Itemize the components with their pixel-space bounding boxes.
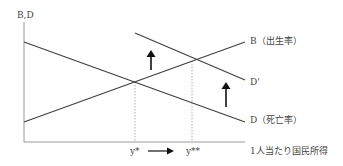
- x-axis-label: 1人当たり国民所得: [250, 146, 328, 156]
- tick-y-star-star: y**: [186, 146, 200, 156]
- right-arrow-icon: [148, 148, 174, 155]
- death-rate-label: D（死亡率）: [250, 115, 302, 125]
- birth-rate-label: B（出生率）: [250, 36, 302, 46]
- shifted-death-rate-label: D': [250, 77, 260, 87]
- diagram-canvas: [0, 0, 343, 166]
- tick-y-star: y*: [130, 146, 140, 156]
- up-arrow-icon: [147, 50, 156, 70]
- up-arrow-icon: [222, 82, 231, 107]
- y-axis-label: B,D: [17, 10, 34, 20]
